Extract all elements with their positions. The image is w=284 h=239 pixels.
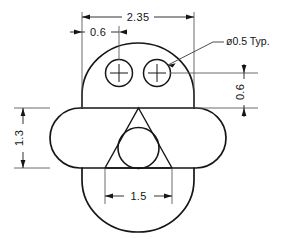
- dim-label-slot-height: 1.3: [13, 130, 25, 146]
- hole-left-center-mark: [110, 64, 128, 82]
- inscribed-circle: [118, 128, 159, 169]
- arrow-left-2p35: [82, 15, 90, 20]
- triangle-feature: [105, 108, 172, 168]
- arrow-right-2p35: [186, 15, 194, 20]
- dim-label-triangle-base: 1.5: [130, 190, 146, 202]
- arrow-bottom-1p3: [21, 160, 26, 168]
- note-hole-diameter: ø0.5 Typ.: [168, 35, 270, 68]
- horizontal-slot-outline: [50, 108, 226, 168]
- dimension-triangle-base: 1.5: [105, 168, 172, 204]
- arrow-right-0p6h: [119, 30, 127, 35]
- dim-label-hole-offset: 0.6: [90, 26, 106, 38]
- arrow-left-1p5: [105, 194, 113, 199]
- part-geometry: [50, 43, 226, 232]
- cad-canvas: 2.35 0.6 0.6 1.: [0, 0, 284, 239]
- arrow-left-0p6h: [74, 30, 82, 35]
- dimension-slot-height: 1.3: [13, 108, 50, 168]
- arrow-right-1p5: [164, 194, 172, 199]
- note-label-hole-diameter: ø0.5 Typ.: [226, 35, 270, 47]
- hole-right-center-mark: [148, 64, 166, 82]
- arrow-bottom-0p6v: [242, 108, 247, 116]
- arrow-top-1p3: [21, 108, 26, 116]
- dim-label-hole-height: 0.6: [234, 84, 246, 100]
- engineering-drawing: 2.35 0.6 0.6 1.: [0, 0, 284, 239]
- dim-label-overall-width: 2.35: [127, 11, 150, 23]
- dimension-hole-height: 0.6: [170, 64, 258, 117]
- dimension-hole-offset: 0.6: [70, 25, 127, 60]
- leader-line-segment: [168, 42, 213, 65]
- arrow-top-0p6v: [242, 65, 247, 73]
- upper-dome-outline: [82, 43, 194, 108]
